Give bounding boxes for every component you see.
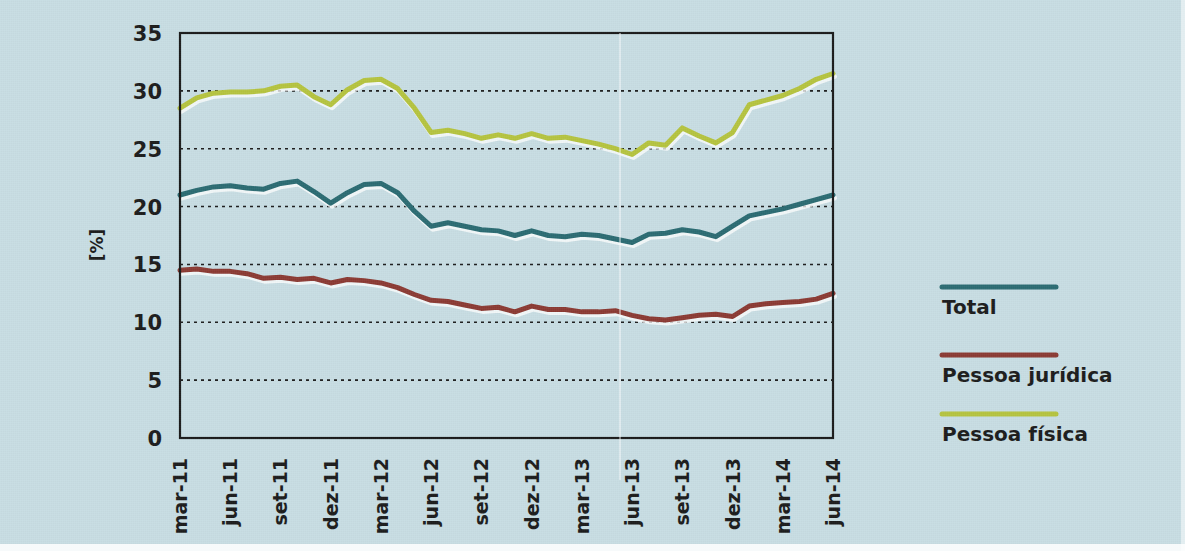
- y-tick-label-35: 35: [133, 22, 162, 46]
- y-tick-label-15: 15: [133, 253, 162, 277]
- x-tick-label-mar-13: mar-13: [571, 458, 593, 534]
- x-tick-label-mar-14: mar-14: [772, 458, 794, 534]
- x-tick-label-jun-11: jun-11: [219, 458, 241, 527]
- page-right-edge: [1181, 0, 1185, 551]
- y-axis-label: [%]: [87, 229, 107, 262]
- series-lines-group: [180, 74, 835, 323]
- x-tick-label-jun-14: jun-14: [822, 458, 844, 527]
- x-tick-label-set-11: set-11: [269, 458, 291, 526]
- x-tick-label-dez-11: dez-11: [320, 458, 342, 530]
- x-tick-label-jun-12: jun-12: [420, 458, 442, 527]
- y-axis-tick-labels: 05101520253035: [133, 22, 162, 451]
- page-bottom-edge: [0, 544, 1185, 551]
- x-tick-label-dez-12: dez-12: [521, 458, 543, 530]
- chart-figure: 05101520253035 mar-11jun-11set-11dez-11m…: [0, 0, 1185, 551]
- x-tick-label-mar-11: mar-11: [169, 458, 191, 534]
- line-chart-canvas: 05101520253035 mar-11jun-11set-11dez-11m…: [0, 0, 1185, 551]
- y-tick-label-20: 20: [133, 196, 162, 220]
- series-line-pessoa-física: [180, 74, 833, 155]
- x-tick-label-mar-12: mar-12: [370, 458, 392, 534]
- y-axis-title: [%]: [87, 229, 107, 262]
- y-tick-label-5: 5: [147, 369, 162, 393]
- x-tick-label-set-13: set-13: [671, 458, 693, 526]
- legend-label-total: Total: [942, 295, 997, 319]
- x-tick-label-jun-13: jun-13: [621, 458, 643, 527]
- y-tick-label-10: 10: [133, 311, 162, 335]
- y-tick-label-25: 25: [133, 138, 162, 162]
- chart-legend: TotalPessoa jurídicaPessoa física: [942, 287, 1113, 446]
- legend-label-pessoa-física: Pessoa física: [942, 422, 1088, 446]
- x-tick-label-dez-13: dez-13: [722, 458, 744, 530]
- y-tick-label-30: 30: [133, 80, 162, 104]
- y-tick-label-0: 0: [147, 427, 162, 451]
- x-axis-tick-labels: mar-11jun-11set-11dez-11mar-12jun-12set-…: [169, 458, 844, 534]
- legend-label-pessoa-jurídica: Pessoa jurídica: [942, 363, 1113, 387]
- series-shadow-0: [182, 184, 835, 245]
- x-tick-label-set-12: set-12: [470, 458, 492, 526]
